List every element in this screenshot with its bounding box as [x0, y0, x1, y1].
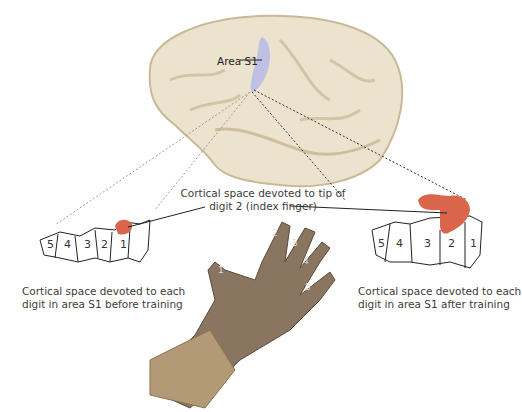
digit-5-label: 5: [47, 238, 54, 251]
area-s1-label: Area S1: [217, 55, 258, 67]
svg-text:5: 5: [305, 282, 311, 292]
after-training-caption: Cortical space devoted to each digit in …: [358, 285, 508, 311]
svg-text:1: 1: [218, 265, 224, 275]
svg-text:3: 3: [424, 237, 431, 250]
figure-canvas: 5 4 3 2 1 5 4 3 2 1 1: [0, 0, 522, 412]
digit-3-label: 3: [84, 238, 91, 251]
digit-4-label: 4: [64, 238, 71, 251]
svg-text:3: 3: [292, 238, 298, 248]
svg-text:4: 4: [303, 256, 309, 266]
before-training-caption: Cortical space devoted to each digit in …: [22, 285, 172, 311]
after-training-map: 5 4 3 2 1: [372, 194, 482, 268]
svg-text:4: 4: [396, 237, 403, 250]
svg-text:5: 5: [378, 237, 385, 250]
monkey-hand-illustration: 1 2 3 4 5: [150, 222, 335, 408]
tip-caption: Cortical space devoted to tip of digit 2…: [178, 187, 348, 213]
digit-1-label: 1: [120, 238, 127, 251]
svg-text:1: 1: [470, 237, 477, 250]
svg-text:2: 2: [272, 228, 278, 238]
digit-2-label: 2: [101, 238, 108, 251]
svg-text:2: 2: [448, 237, 455, 250]
